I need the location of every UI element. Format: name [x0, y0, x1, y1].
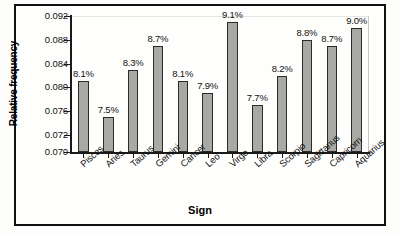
y-tick-label: 0.070 [8, 146, 68, 157]
y-tick-label: 0.072 [8, 129, 68, 140]
y-axis-line [70, 15, 72, 154]
y-tick-label: 0.092 [8, 10, 68, 21]
bar [302, 40, 313, 152]
bar [178, 81, 189, 152]
y-tick-label: 0.076 [8, 105, 68, 116]
bar-value-label: 7.5% [92, 104, 124, 115]
y-tick-label: 0.080 [8, 81, 68, 92]
bar [78, 81, 89, 152]
bar [202, 93, 213, 152]
bar-value-label: 8.7% [316, 33, 348, 44]
bar [277, 76, 288, 153]
bar-value-label: 7.9% [192, 80, 224, 91]
bar [227, 22, 238, 152]
bar-value-label: 9.1% [216, 9, 248, 20]
bar [128, 70, 139, 152]
bar-value-label: 7.7% [241, 92, 273, 103]
bar-value-label: 8.3% [117, 57, 149, 68]
bar [153, 46, 164, 152]
bar-value-label: 9.0% [341, 15, 373, 26]
bar-value-label: 8.2% [266, 63, 298, 74]
y-tick-label: 0.084 [8, 58, 68, 69]
y-tick-label: 0.088 [8, 34, 68, 45]
bar [252, 105, 263, 152]
bar [103, 117, 114, 152]
bar-value-label: 8.7% [142, 33, 174, 44]
bar-value-label: 8.1% [167, 68, 199, 79]
x-axis-title: Sign [0, 204, 400, 216]
bar-value-label: 8.1% [67, 68, 99, 79]
figure-root: Relative frequency Sign 0.0920.0880.0840… [0, 0, 400, 235]
